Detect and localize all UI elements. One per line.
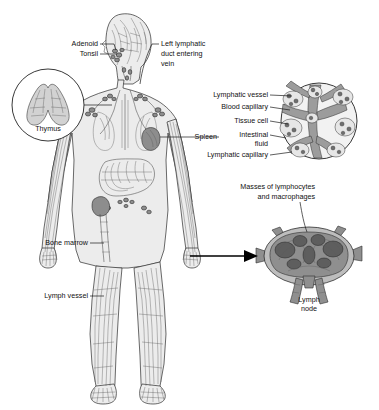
label-bone-marrow: Bone marrow (45, 238, 89, 247)
label-blood-capillary: Blood capillary (221, 102, 268, 111)
label-spleen: Spleen (195, 132, 217, 141)
label-left-lymphatic-duct-line3: vein (161, 59, 174, 68)
bone-marrow-organ (92, 197, 110, 217)
label-left-lymphatic-duct-line2: duct entering (161, 49, 203, 58)
label-lymphatic-capillary: Lymphatic capillary (207, 150, 268, 159)
lymph-node-label-line1: Lymph (298, 295, 319, 304)
left-hand-outline (40, 248, 57, 268)
label-intestinal-line2: fluid (255, 139, 268, 148)
right-hand-outline (184, 248, 201, 268)
thymus-inset-label: Thymus (35, 124, 61, 133)
lymphatic-system-figure: Thymus (0, 0, 379, 410)
label-lymphatic-vessel: Lymphatic vessel (213, 90, 268, 99)
label-tonsil: Tonsil (80, 49, 99, 58)
label-left-lymphatic-duct-line1: Left lymphatic (161, 39, 206, 48)
label-lymph-vessel: Lymph vessel (44, 291, 88, 300)
label-masses-line2: and macrophages (257, 192, 315, 201)
label-intestinal-line1: Intestinal (239, 130, 268, 139)
capillary-bed-inset (280, 81, 357, 159)
label-tissue-cell: Tissue cell (234, 116, 268, 125)
label-masses-line1: Masses of lymphocytes (240, 182, 315, 191)
label-adenoid: Adenoid (72, 39, 98, 48)
lymph-node-label-line2: node (301, 304, 317, 313)
